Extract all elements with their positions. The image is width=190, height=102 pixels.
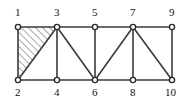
node-label-7: 7 xyxy=(130,6,136,18)
node-4 xyxy=(54,77,59,82)
node-6 xyxy=(92,77,97,82)
node-7 xyxy=(130,24,135,29)
node-label-8: 8 xyxy=(130,86,136,98)
diagonal-7-10 xyxy=(133,27,172,80)
node-label-10: 10 xyxy=(165,86,177,98)
diagonal-3-6 xyxy=(57,27,95,80)
node-label-9: 9 xyxy=(169,6,175,18)
node-label-2: 2 xyxy=(15,86,21,98)
node-5 xyxy=(92,24,97,29)
node-2 xyxy=(15,77,20,82)
node-label-1: 1 xyxy=(15,6,21,18)
node-9 xyxy=(169,24,174,29)
diagonal-6-7 xyxy=(95,27,133,80)
truss-structure-diagram: 1 2 3 4 5 6 7 8 9 10 xyxy=(0,0,190,102)
node-1 xyxy=(15,24,20,29)
node-3 xyxy=(54,24,59,29)
node-label-5: 5 xyxy=(92,6,98,18)
node-8 xyxy=(130,77,135,82)
node-10 xyxy=(169,77,174,82)
truss-canvas: 1 2 3 4 5 6 7 8 9 10 xyxy=(0,0,190,102)
node-label-4: 4 xyxy=(54,86,60,98)
node-label-3: 3 xyxy=(54,6,60,18)
node-label-6: 6 xyxy=(92,86,98,98)
